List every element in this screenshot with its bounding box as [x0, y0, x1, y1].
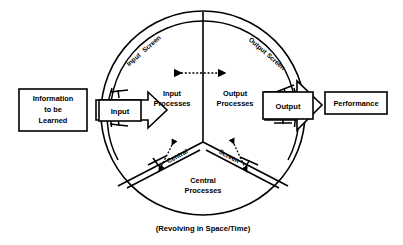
information-box-line2: to be — [44, 105, 62, 114]
lower-right-divider — [203, 142, 288, 186]
central-screen-left-line — [127, 150, 200, 188]
performance-box-label: Performance — [333, 99, 378, 108]
input-processes-line1: Input — [163, 89, 182, 98]
output-processes-line2: Processes — [217, 99, 254, 108]
output-screen-word2: Screen — [266, 51, 287, 71]
central-screen-right-line — [206, 150, 279, 188]
output-processes-line1: Output — [223, 89, 248, 98]
input-box-label: Input — [111, 107, 130, 116]
input-processes-line2: Processes — [154, 99, 191, 108]
central-processes-line2: Processes — [185, 186, 222, 195]
information-box-line3: Learned — [39, 116, 68, 125]
information-processing-model-diagram: Information to be Learned Input Output P… — [0, 0, 403, 245]
output-screen-label: Output Screen — [247, 36, 287, 72]
diagram-canvas: Information to be Learned Input Output P… — [0, 0, 403, 245]
input-screen-word1: Input — [125, 51, 143, 68]
central-screen-left-gate — [148, 156, 166, 165]
central-processes-line1: Central — [190, 176, 215, 185]
input-screen-label: Input Screen — [125, 34, 163, 68]
output-box-label: Output — [276, 102, 301, 111]
diagram-caption: (Revolving in Space/Time) — [156, 224, 251, 233]
information-box-line1: Information — [33, 94, 74, 103]
